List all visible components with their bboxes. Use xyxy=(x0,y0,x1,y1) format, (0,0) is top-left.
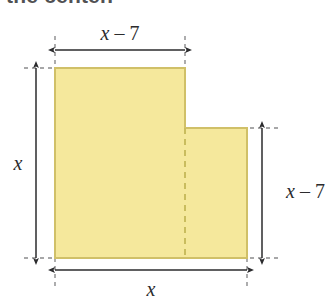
dimension-label-right-variable: x xyxy=(285,180,295,202)
dimension-label-right-number: 7 xyxy=(315,180,325,202)
dimension-label-left: x xyxy=(13,152,23,174)
dimension-label-top-variable: x xyxy=(100,22,110,44)
dimension-label-right: x–7 xyxy=(285,180,325,202)
dimension-label-top-operator: – xyxy=(113,22,125,44)
dimension-label-bottom: x xyxy=(146,278,156,300)
l-shape-region xyxy=(55,68,247,258)
dimension-label-right-operator: – xyxy=(299,180,311,202)
dimension-label-top: x–7 xyxy=(100,22,140,44)
dimension-label-top-number: 7 xyxy=(129,22,139,44)
geometry-figure: the center. xyxy=(0,0,325,306)
diagram-canvas: x–7 x x–7 x xyxy=(0,0,325,306)
